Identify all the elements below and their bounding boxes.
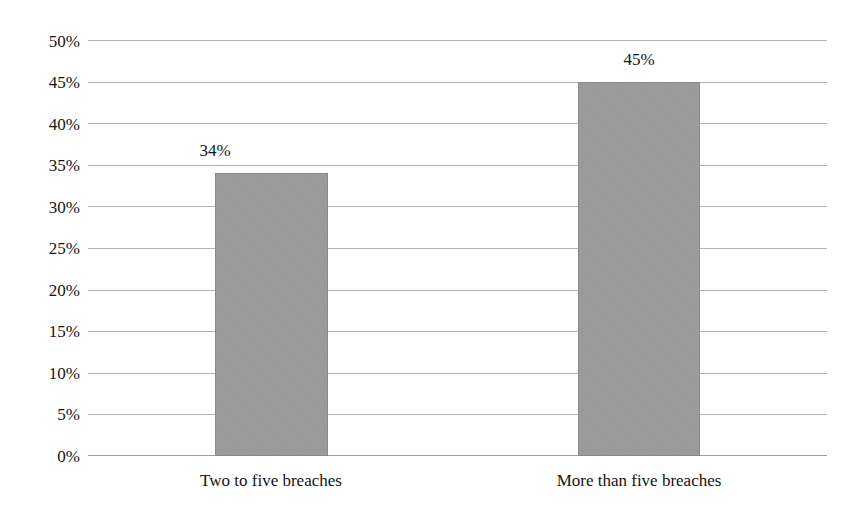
plot-area: [88, 40, 827, 456]
y-axis-tick-label: 50%: [10, 33, 80, 50]
bar-value-label: 34%: [155, 142, 275, 159]
y-axis-tick-label: 5%: [10, 406, 80, 423]
category-label-two-to-five-breaches: Two to five breaches: [151, 472, 391, 489]
y-axis-tick-label: 40%: [10, 116, 80, 133]
y-axis-tick-label: 20%: [10, 282, 80, 299]
category-label-more-than-five-breaches: More than five breaches: [519, 472, 759, 489]
y-axis-tick-label: 45%: [10, 74, 80, 91]
gridline-10: [88, 373, 827, 374]
gridline-20: [88, 290, 827, 291]
y-axis-tick-label: 0%: [10, 448, 80, 465]
bar-value-label: 45%: [579, 51, 699, 68]
y-axis-tick-label: 10%: [10, 365, 80, 382]
gridline-30: [88, 206, 827, 207]
gridline-5: [88, 414, 827, 415]
bar-chart: 50% 45% 40% 35% 30% 25% 20% 15% 10% 5% 0…: [0, 0, 865, 520]
bar-more-than-five-breaches[interactable]: [578, 82, 700, 456]
gridline-25: [88, 248, 827, 249]
gridline-0-baseline: [88, 455, 827, 456]
y-axis-tick-label: 15%: [10, 323, 80, 340]
gridline-35: [88, 165, 827, 166]
bar-two-to-five-breaches[interactable]: [215, 173, 328, 456]
gridline-50: [88, 40, 827, 41]
y-axis-tick-label: 25%: [10, 240, 80, 257]
gridline-45: [88, 82, 827, 83]
gridline-15: [88, 331, 827, 332]
y-axis-tick-label: 35%: [10, 157, 80, 174]
y-axis-tick-label: 30%: [10, 199, 80, 216]
gridline-40: [88, 123, 827, 124]
